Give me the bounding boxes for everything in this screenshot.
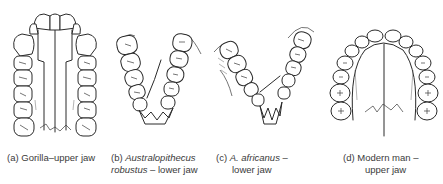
gorilla-upper-jaw-illustration: [0, 0, 110, 140]
caption-prefix: (b): [111, 152, 125, 163]
caption-species: A. africanus: [230, 152, 280, 163]
caption-line-1: (d) Modern man –: [343, 152, 419, 163]
caption-modern-man: (d) Modern man – upper jaw: [343, 152, 419, 176]
caption-genus: Australopithecus: [125, 152, 195, 163]
caption-line-1: (a) Gorilla–upper jaw: [7, 152, 95, 163]
panel-africanus-lower-jaw: (c) A. africanus – lower jaw: [210, 0, 320, 184]
caption-species: robustus: [111, 164, 147, 175]
caption-line-2: upper jaw: [365, 164, 406, 175]
caption-jaw: lower jaw: [232, 164, 272, 175]
caption-gorilla: (a) Gorilla–upper jaw: [7, 152, 95, 164]
robustus-lower-jaw-illustration: [105, 0, 210, 140]
caption-robustus: (b) Australopithecus robustus – lower ja…: [111, 152, 198, 176]
caption-jaw: – lower jaw: [147, 164, 197, 175]
africanus-lower-jaw-illustration: [210, 0, 320, 140]
panel-gorilla-upper-jaw: (a) Gorilla–upper jaw: [0, 0, 110, 184]
panel-modern-man-upper-jaw: (d) Modern man – upper jaw: [325, 0, 443, 184]
caption-dash: –: [280, 152, 288, 163]
caption-prefix: (c): [216, 152, 230, 163]
panel-robustus-lower-jaw: (b) Australopithecus robustus – lower ja…: [105, 0, 210, 184]
modern-man-upper-jaw-illustration: [325, 0, 443, 140]
caption-africanus: (c) A. africanus – lower jaw: [216, 152, 288, 176]
